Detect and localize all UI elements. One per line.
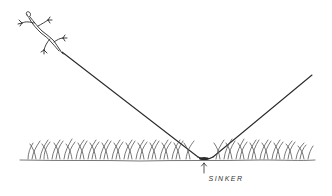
arrow-up-icon [202,163,207,173]
grass [20,139,315,161]
lizard-icon [18,12,67,54]
sinker-label: SINKER [196,175,256,182]
sinker-icon [199,157,209,160]
line-drawing-illustration [0,0,332,196]
